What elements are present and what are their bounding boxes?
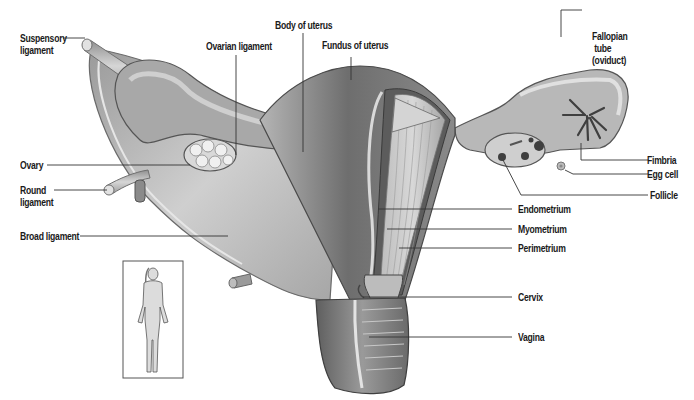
label-body-of-uterus: Body of uterus — [275, 19, 332, 31]
label-ovarian-ligament: Ovarian ligament — [206, 40, 272, 52]
label-round-ligament: Round ligament — [20, 184, 53, 208]
label-fimbria: Fimbria — [647, 154, 676, 166]
label-egg-cell: Egg cell — [647, 168, 678, 180]
round-ligament-shape — [104, 170, 150, 202]
label-suspensory-ligament: Suspensory ligament — [20, 32, 67, 56]
label-endometrium: Endometrium — [518, 203, 571, 215]
label-vagina: Vagina — [518, 331, 544, 343]
label-broad-ligament: Broad ligament — [20, 230, 79, 242]
label-perimetrium: Perimetrium — [518, 242, 566, 254]
anatomy-diagram — [0, 0, 694, 400]
vagina-shape — [316, 298, 409, 394]
ligament-stub-shape — [229, 274, 252, 288]
label-ovary: Ovary — [20, 159, 43, 171]
label-follicle: Follicle — [650, 189, 678, 201]
label-fallopian-tube: Fallopian tube (oviduct) — [592, 30, 628, 66]
left-ovary-shape — [184, 139, 236, 171]
label-cervix: Cervix — [518, 291, 543, 303]
right-ovary-shape — [485, 133, 545, 167]
label-fundus-of-uterus: Fundus of uterus — [322, 39, 388, 51]
egg-cell-shape — [557, 162, 565, 170]
label-myometrium: Myometrium — [518, 223, 567, 235]
body-inset — [123, 261, 183, 378]
